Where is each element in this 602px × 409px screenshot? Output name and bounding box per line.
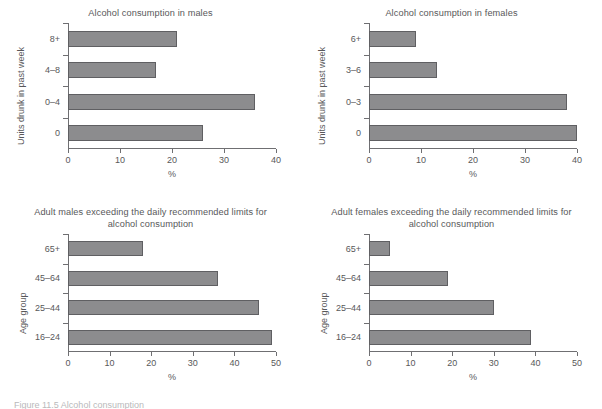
y-axis-tick — [364, 264, 369, 265]
x-tick-label: 40 — [530, 358, 540, 368]
x-axis-tick — [172, 149, 173, 153]
bar — [369, 62, 437, 78]
bar — [369, 94, 567, 110]
bar — [68, 330, 272, 345]
x-axis-tick — [68, 149, 69, 153]
bar — [68, 300, 259, 315]
x-axis-tick — [224, 149, 225, 153]
x-tick-label: 50 — [271, 358, 281, 368]
x-tick-label: 10 — [105, 358, 115, 368]
bar — [68, 62, 156, 78]
plot-area: Units drunk in past week % 8+4–80–400102… — [0, 23, 301, 149]
y-tick-label: 25–44 — [299, 303, 361, 313]
plot-area: Age group % 65+45–6425–4416–240102030405… — [0, 234, 301, 352]
chart-panel-adult-females-exceeding-limits: Adult females exceeding the daily recomm… — [301, 200, 602, 395]
chart-panel-alcohol-consumption-males: Alcohol consumption in males Units drunk… — [0, 0, 301, 200]
x-tick-label: 0 — [65, 155, 70, 165]
x-axis-tick — [151, 352, 152, 356]
bar — [68, 241, 143, 256]
y-tick-label: 0 — [0, 128, 60, 138]
x-tick-label: 10 — [115, 155, 125, 165]
bar — [68, 94, 255, 110]
y-axis-tick — [63, 293, 68, 294]
x-tick-label: 20 — [468, 155, 478, 165]
x-axis-tick — [525, 149, 526, 153]
y-axis-tick — [364, 23, 369, 24]
y-tick-label: 3–6 — [299, 65, 361, 75]
x-axis-tick — [411, 352, 412, 356]
x-axis-tick — [276, 352, 277, 356]
x-axis-tick — [577, 352, 578, 356]
x-axis-line — [68, 351, 276, 352]
y-axis-tick — [364, 323, 369, 324]
x-axis-tick — [193, 352, 194, 356]
x-axis-tick — [473, 149, 474, 153]
y-axis-tick — [364, 118, 369, 119]
chart-title: Alcohol consumption in males — [0, 0, 301, 19]
x-axis-tick — [234, 352, 235, 356]
x-tick-label: 0 — [366, 155, 371, 165]
y-axis-tick — [63, 118, 68, 119]
y-tick-label: 4–8 — [0, 65, 60, 75]
x-tick-label: 40 — [229, 358, 239, 368]
bar — [369, 271, 448, 286]
x-tick-label: 20 — [146, 358, 156, 368]
bar — [369, 31, 416, 47]
x-tick-label: 50 — [572, 358, 582, 368]
chart-panel-adult-males-exceeding-limits: Adult males exceeding the daily recommen… — [0, 200, 301, 395]
y-tick-label: 65+ — [0, 244, 60, 254]
y-axis-title: Age group — [18, 292, 28, 334]
x-axis-tick — [120, 149, 121, 153]
chart-title: Adult males exceeding the daily recommen… — [0, 200, 301, 230]
y-tick-label: 45–64 — [0, 273, 60, 283]
x-axis-tick — [577, 149, 578, 153]
chart-title: Adult females exceeding the daily recomm… — [301, 200, 602, 230]
y-axis-tick — [364, 234, 369, 235]
figure-grid: Alcohol consumption in males Units drunk… — [0, 0, 602, 409]
y-tick-label: 16–24 — [0, 332, 60, 342]
y-axis-tick — [63, 264, 68, 265]
bar — [68, 125, 203, 141]
y-axis-tick — [63, 55, 68, 56]
x-axis-tick — [68, 352, 69, 356]
x-tick-label: 0 — [366, 358, 371, 368]
x-axis-tick — [276, 149, 277, 153]
figure-caption: Figure 11.5 Alcohol consumption — [14, 400, 594, 409]
x-tick-label: 30 — [219, 155, 229, 165]
x-axis-tick — [452, 352, 453, 356]
x-axis-tick — [369, 149, 370, 153]
x-axis-title: % — [68, 169, 276, 179]
chart-panel-alcohol-consumption-females: Alcohol consumption in females Units dru… — [301, 0, 602, 200]
x-axis-tick — [535, 352, 536, 356]
y-tick-label: 0 — [299, 128, 361, 138]
y-axis-tick — [364, 293, 369, 294]
x-tick-label: 40 — [572, 155, 582, 165]
y-axis-tick — [364, 55, 369, 56]
y-tick-label: 6+ — [299, 34, 361, 44]
bar — [369, 300, 494, 315]
x-axis-title: % — [369, 169, 577, 179]
x-tick-label: 30 — [520, 155, 530, 165]
x-axis-tick — [110, 352, 111, 356]
y-axis-tick — [364, 86, 369, 87]
bar — [68, 31, 177, 47]
bar — [369, 125, 577, 141]
chart-title: Alcohol consumption in females — [301, 0, 602, 19]
y-tick-label: 16–24 — [299, 332, 361, 342]
x-axis-line — [369, 351, 577, 352]
plot-area: Units drunk in past week % 6+3–60–300102… — [301, 23, 602, 149]
x-tick-label: 10 — [416, 155, 426, 165]
y-axis-title: Age group — [319, 292, 329, 334]
x-axis-title: % — [68, 372, 276, 382]
x-axis-tick — [421, 149, 422, 153]
bar — [369, 241, 390, 256]
y-tick-label: 0–4 — [0, 97, 60, 107]
x-tick-label: 30 — [489, 358, 499, 368]
y-tick-label: 65+ — [299, 244, 361, 254]
y-axis-tick — [63, 234, 68, 235]
x-axis-title: % — [369, 372, 577, 382]
x-tick-label: 0 — [65, 358, 70, 368]
y-axis-tick — [63, 323, 68, 324]
y-axis-tick — [63, 23, 68, 24]
plot-area: Age group % 65+45–6425–4416–240102030405… — [301, 234, 602, 352]
